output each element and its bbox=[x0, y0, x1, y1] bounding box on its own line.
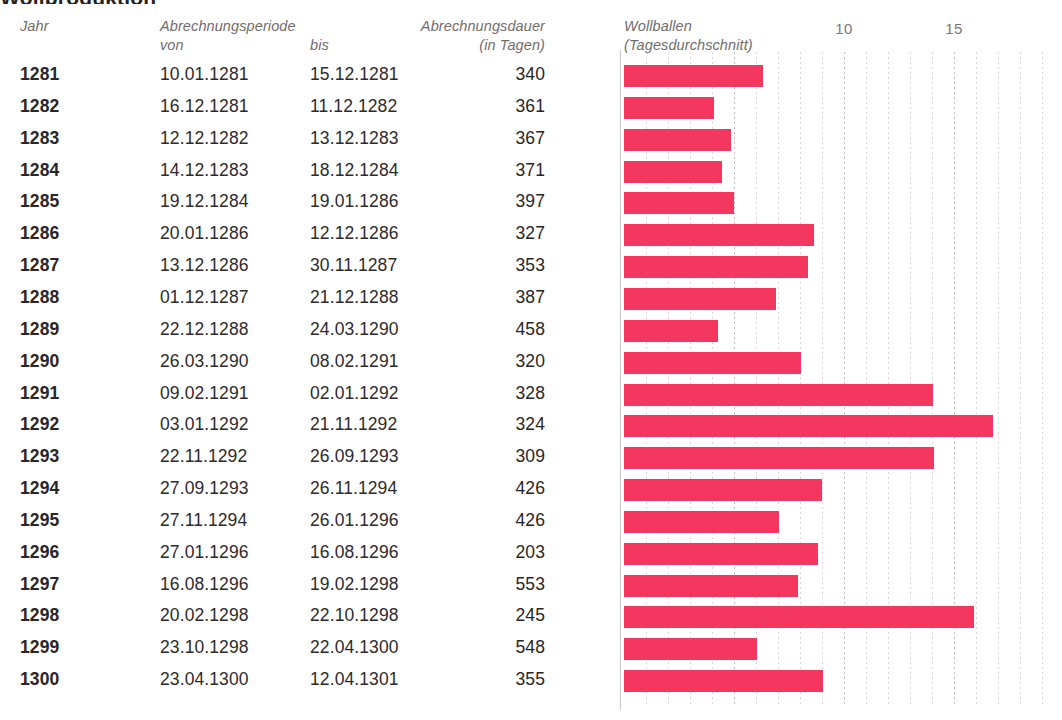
bar bbox=[624, 479, 822, 501]
bar bbox=[624, 384, 933, 406]
bar bbox=[624, 65, 763, 87]
bar bbox=[624, 224, 814, 246]
bar bbox=[624, 415, 993, 437]
y-axis-line bbox=[620, 50, 621, 710]
bar bbox=[624, 638, 757, 660]
bar bbox=[624, 670, 823, 692]
gridline-minor bbox=[1042, 52, 1043, 707]
page-root: Wollproduktion Jahr Abrechnungsperiode v… bbox=[0, 0, 1062, 720]
bar bbox=[624, 288, 776, 310]
x-axis-tick-label: 10 bbox=[835, 20, 852, 37]
bar-chart: 1015 bbox=[0, 0, 1062, 720]
bar bbox=[624, 447, 934, 469]
bar bbox=[624, 192, 734, 214]
bar bbox=[624, 320, 718, 342]
bar bbox=[624, 511, 779, 533]
bar bbox=[624, 129, 731, 151]
bar bbox=[624, 256, 808, 278]
bar bbox=[624, 161, 722, 183]
bar bbox=[624, 352, 801, 374]
gridline-minor bbox=[998, 52, 999, 707]
bar bbox=[624, 575, 798, 597]
plot-area: 1015 bbox=[624, 52, 1062, 707]
x-axis-tick-label: 15 bbox=[945, 20, 962, 37]
gridline-minor bbox=[976, 52, 977, 707]
bottom-margin bbox=[0, 710, 1062, 720]
gridline-minor bbox=[1020, 52, 1021, 707]
bar bbox=[624, 606, 974, 628]
bar bbox=[624, 543, 818, 565]
bar bbox=[624, 97, 714, 119]
